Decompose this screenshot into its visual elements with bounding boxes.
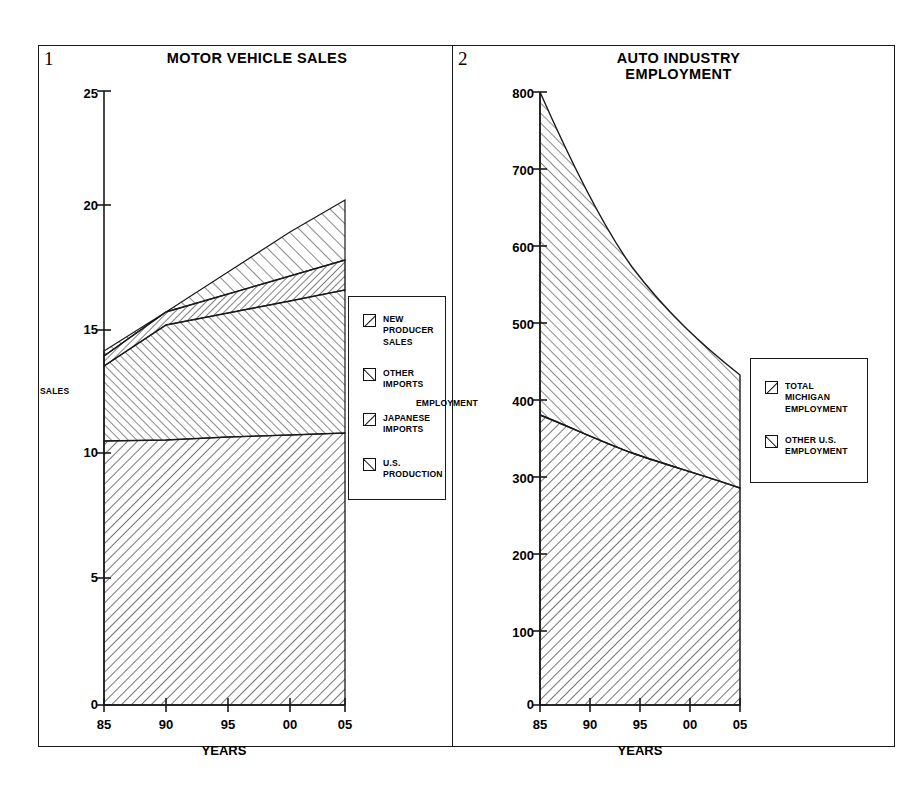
y-tick-label: 5 — [54, 570, 98, 585]
legend-label: OTHER IMPORTS — [383, 368, 424, 391]
x-tick-label: 00 — [270, 717, 310, 732]
x-tick-label: 90 — [146, 717, 186, 732]
y-tick-label: 400 — [472, 394, 534, 409]
legend-label: JAPANESE IMPORTS — [383, 413, 430, 436]
y-tick-label: 200 — [472, 548, 534, 563]
legend-item[interactable]: OTHER U.S. EMPLOYMENT — [765, 435, 848, 458]
y-tick-label: 0 — [54, 697, 98, 712]
legend-item[interactable]: NEW PRODUCER SALES — [363, 314, 434, 348]
hatch-swatch-icon — [363, 314, 376, 327]
legend-item[interactable]: OTHER IMPORTS — [363, 368, 424, 391]
x-tick-label: 95 — [620, 717, 660, 732]
legend-label: U.S. PRODUCTION — [383, 458, 443, 481]
y-axis-title: EMPLOYMENT — [416, 398, 478, 408]
x-tick-label: 95 — [208, 717, 248, 732]
y-tick-label: 100 — [472, 625, 534, 640]
y-tick-label: 300 — [472, 471, 534, 486]
x-tick-label: 90 — [570, 717, 610, 732]
hatch-swatch-icon — [363, 368, 376, 381]
legend-employment: TOTAL MICHIGAN EMPLOYMENT OTHER U.S. EMP… — [750, 358, 868, 483]
y-tick-label: 0 — [472, 697, 534, 712]
legend-item[interactable]: JAPANESE IMPORTS — [363, 413, 430, 436]
hatch-swatch-icon — [765, 381, 778, 394]
y-tick-label: 700 — [472, 163, 534, 178]
hatch-swatch-icon — [363, 413, 376, 426]
y-tick-label: 15 — [54, 322, 98, 337]
figure-root: 1 MOTOR VEHICLE SALES 25 20 15 10 5 0 SA… — [0, 0, 917, 787]
y-tick-label: 20 — [54, 198, 98, 213]
y-tick-label: 500 — [472, 317, 534, 332]
y-tick-label: 600 — [472, 240, 534, 255]
x-tick-label: 85 — [84, 717, 124, 732]
panel-auto-industry-employment: 2 AUTO INDUSTRY EMPLOYMENT 800 700 600 5… — [452, 45, 895, 747]
panel-title: AUTO INDUSTRY EMPLOYMENT — [452, 50, 895, 82]
hatch-swatch-icon — [765, 435, 778, 448]
x-tick-label: 05 — [720, 717, 760, 732]
legend-label: NEW PRODUCER SALES — [383, 314, 434, 348]
x-tick-label: 05 — [325, 717, 365, 732]
y-tick-label: 25 — [54, 86, 98, 101]
legend-label: OTHER U.S. EMPLOYMENT — [785, 435, 848, 458]
x-tick-label: 00 — [670, 717, 710, 732]
area-us-production — [104, 433, 345, 705]
legend-item[interactable]: TOTAL MICHIGAN EMPLOYMENT — [765, 381, 848, 415]
panel-title: MOTOR VEHICLE SALES — [38, 50, 452, 66]
x-axis-title: YEARS — [164, 743, 284, 758]
x-axis-title: YEARS — [580, 743, 700, 758]
x-tick-label: 85 — [520, 717, 560, 732]
panel-motor-vehicle-sales: 1 MOTOR VEHICLE SALES 25 20 15 10 5 0 SA… — [38, 45, 452, 747]
legend-item[interactable]: U.S. PRODUCTION — [363, 458, 443, 481]
hatch-swatch-icon — [363, 458, 376, 471]
y-tick-label: 800 — [472, 86, 534, 101]
legend-label: TOTAL MICHIGAN EMPLOYMENT — [785, 381, 848, 415]
y-axis-title: SALES — [40, 386, 69, 396]
y-tick-label: 10 — [54, 445, 98, 460]
